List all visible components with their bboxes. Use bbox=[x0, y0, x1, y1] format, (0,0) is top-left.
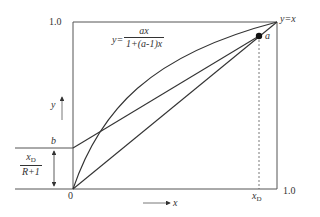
xd-label-sub: D bbox=[256, 195, 261, 203]
intercept-den: R+1 bbox=[20, 165, 42, 177]
diagonal-line bbox=[73, 22, 277, 189]
equilibrium-lhs: y= bbox=[112, 35, 123, 45]
xd-label: xD bbox=[252, 191, 262, 203]
equilibrium-fraction: ax 1+(a-1)x bbox=[124, 26, 164, 49]
point-a-label: a bbox=[265, 31, 270, 41]
y-max-label: 1.0 bbox=[49, 17, 62, 27]
b-label: b bbox=[51, 136, 56, 146]
equilibrium-den: 1+(a-1)x bbox=[124, 37, 164, 49]
y-axis-label: y bbox=[51, 100, 55, 110]
x-max-label: 1.0 bbox=[283, 186, 296, 196]
diagonal-label: y=x bbox=[280, 14, 296, 24]
point-a bbox=[256, 33, 262, 39]
intercept-fraction: xD R+1 bbox=[20, 152, 42, 177]
x-axis-label: x bbox=[173, 198, 177, 208]
intercept-num-sub: D bbox=[31, 156, 36, 164]
equilibrium-num: ax bbox=[137, 26, 150, 37]
origin-label: 0 bbox=[68, 191, 73, 201]
